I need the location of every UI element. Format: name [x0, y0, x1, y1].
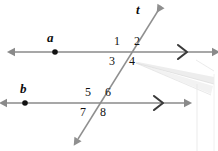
- line-label-a: a: [47, 31, 54, 44]
- parallel-line-b: [7, 96, 184, 110]
- geometry-canvas: [0, 0, 218, 151]
- angle-label-8: 8: [100, 106, 106, 118]
- line-label-b: b: [20, 82, 27, 95]
- point-on-line-b: [22, 100, 28, 106]
- angle-label-4: 4: [129, 55, 135, 67]
- angle-label-5: 5: [85, 86, 91, 98]
- line-label-t: t: [136, 3, 140, 16]
- point-on-line-a: [52, 49, 58, 55]
- angle-label-6: 6: [105, 86, 111, 98]
- angle-label-2: 2: [134, 35, 140, 47]
- angle-label-3: 3: [109, 55, 115, 67]
- angle-label-1: 1: [114, 35, 120, 47]
- transversal-line-t: [78, 6, 161, 139]
- geometry-diagram: a b t 1 2 3 4 5 6 7 8: [0, 0, 218, 151]
- scan-artifact-watermark: [136, 60, 214, 151]
- angle-label-7: 7: [80, 106, 86, 118]
